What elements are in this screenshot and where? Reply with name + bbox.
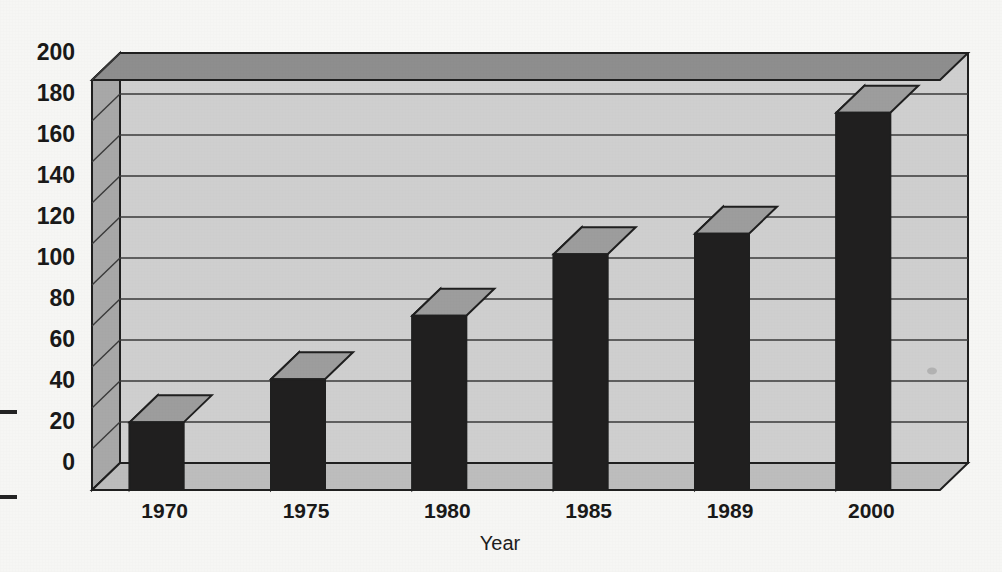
y-tick-label: 80	[49, 285, 75, 311]
chart-container: 020406080100120140160180200 197019751980…	[0, 0, 1002, 572]
y-tick-label: 60	[49, 326, 75, 352]
bar-front-face	[412, 316, 466, 490]
x-tick-label: 2000	[848, 499, 895, 522]
y-tick-label: 40	[49, 367, 75, 393]
y-tick-label: 140	[37, 162, 75, 188]
x-tick-label: 1980	[424, 499, 471, 522]
x-tick-label: 1985	[565, 499, 612, 522]
top-cap	[92, 53, 968, 80]
bar-front-face	[271, 379, 325, 490]
y-tick-label: 180	[37, 80, 75, 106]
x-tick-label: 1970	[141, 499, 188, 522]
scan-speck	[927, 368, 937, 375]
x-tick-label: 1975	[283, 499, 330, 522]
bar-chart-3d: 020406080100120140160180200 197019751980…	[0, 0, 1002, 572]
bar-front-face	[695, 234, 749, 490]
bar-front-face	[554, 254, 608, 490]
x-tick-label: 1989	[707, 499, 754, 522]
x-axis-title: Year	[480, 532, 521, 554]
y-tick-label: 120	[37, 203, 75, 229]
y-tick-label: 160	[37, 121, 75, 147]
y-tick-label: 0	[62, 449, 75, 475]
bar-front-face	[130, 422, 184, 490]
y-tick-label: 200	[37, 39, 75, 65]
y-tick-label: 100	[37, 244, 75, 270]
page-edge-mark-upper	[0, 410, 17, 414]
bar-front-face	[836, 113, 890, 490]
y-axis-labels: 020406080100120140160180200	[37, 39, 75, 475]
page-edge-mark-lower	[0, 495, 17, 499]
x-axis-labels: 197019751980198519892000	[141, 499, 894, 522]
y-tick-label: 20	[49, 408, 75, 434]
